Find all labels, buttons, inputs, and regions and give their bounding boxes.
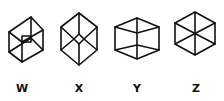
figure-z [175, 12, 215, 55]
figure-label-x: X [69, 82, 89, 95]
figure-label-y: Y [127, 82, 147, 95]
figure-label-z: Z [186, 82, 206, 95]
figure-x [61, 13, 97, 65]
figure-w [9, 17, 43, 62]
figure-label-w: W [12, 82, 32, 95]
figure-y [115, 18, 159, 59]
